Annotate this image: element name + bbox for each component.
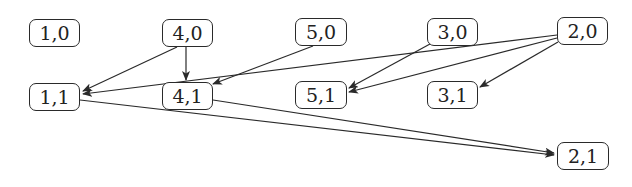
node-label: 2,0 (567, 20, 597, 42)
edge-4-1-to-2-1 (213, 100, 554, 153)
node-label: 5,0 (306, 21, 336, 43)
node-2-1: 2,1 (557, 142, 609, 170)
node-2-0: 2,0 (557, 17, 608, 45)
node-label: 1,0 (39, 22, 69, 44)
node-label: 5,1 (306, 84, 336, 106)
node-label: 2,1 (568, 145, 598, 167)
node-5-1: 5,1 (295, 81, 347, 109)
node-4-0: 4,0 (162, 19, 213, 47)
node-label: 4,1 (172, 85, 202, 107)
node-4-1: 4,1 (162, 82, 213, 110)
node-1-1: 1,1 (29, 83, 80, 111)
node-3-1: 3,1 (427, 81, 478, 109)
node-5-0: 5,0 (295, 18, 347, 46)
node-label: 3,1 (437, 84, 467, 106)
node-3-0: 3,0 (427, 18, 478, 46)
node-label: 1,1 (39, 86, 69, 108)
edge-5-0-to-4-1 (213, 46, 313, 84)
node-label: 4,0 (172, 22, 202, 44)
node-1-0: 1,0 (29, 19, 80, 47)
node-label: 3,0 (437, 21, 467, 43)
edge-2-0-to-3-1 (480, 42, 558, 87)
graph-diagram: 1,0 4,0 5,0 3,0 2,0 1,1 4,1 5,1 3,1 2,1 (0, 0, 632, 187)
